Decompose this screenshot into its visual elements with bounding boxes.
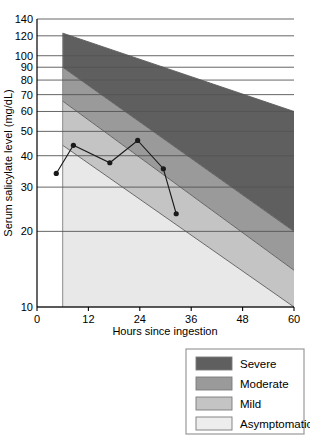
y-tick-label-100: 100 (15, 50, 33, 62)
y-tick-label-20: 20 (21, 225, 33, 237)
data-point (107, 160, 112, 165)
legend-label-severe: Severe (240, 358, 276, 370)
legend: SevereModerateMildAsymptomatic (186, 349, 310, 434)
legend-swatch-moderate (196, 377, 232, 390)
x-tick-label-12: 12 (82, 313, 94, 325)
legend-swatch-severe (196, 357, 232, 370)
x-tick-labels: 01224364860 (34, 313, 300, 325)
y-tick-label-90: 90 (21, 61, 33, 73)
chart-page: 102030405060708090100120140 01224364860 … (0, 0, 310, 438)
x-tick-label-24: 24 (134, 313, 146, 325)
x-tick-label-36: 36 (185, 313, 197, 325)
data-point (135, 138, 140, 143)
y-tick-labels: 102030405060708090100120140 (15, 13, 33, 313)
y-tick-label-140: 140 (15, 13, 33, 25)
data-point (54, 171, 59, 176)
x-tick-label-48: 48 (236, 313, 248, 325)
y-tick-label-120: 120 (15, 30, 33, 42)
data-point (174, 211, 179, 216)
y-tick-label-60: 60 (21, 105, 33, 117)
y-tick-label-40: 40 (21, 150, 33, 162)
x-tick-label-60: 60 (288, 313, 300, 325)
legend-label-mild: Mild (240, 398, 261, 410)
legend-swatch-mild (196, 397, 232, 410)
data-point (71, 143, 76, 148)
legend-label-moderate: Moderate (240, 378, 289, 390)
done-nomogram-chart: 102030405060708090100120140 01224364860 … (0, 0, 310, 438)
y-tick-label-30: 30 (21, 181, 33, 193)
y-tick-label-50: 50 (21, 125, 33, 137)
y-tick-label-10: 10 (21, 301, 33, 313)
legend-swatch-asymptomatic (196, 417, 232, 430)
data-point (161, 166, 166, 171)
y-tick-label-70: 70 (21, 89, 33, 101)
y-tick-label-80: 80 (21, 74, 33, 86)
legend-label-asymptomatic: Asymptomatic (240, 418, 310, 430)
x-tick-label-0: 0 (34, 313, 40, 325)
y-axis-title: Serum salicylate level (mg/dL) (2, 89, 14, 236)
x-axis-title: Hours since ingestion (112, 325, 217, 337)
